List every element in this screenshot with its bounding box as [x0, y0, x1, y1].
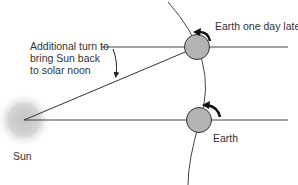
annotation-label: Additional turn to bring Sun back to sol… [30, 40, 110, 76]
additional-turn-arc [113, 49, 117, 75]
earth-one-day-later-label: Earth one day later [215, 20, 298, 32]
earth [187, 108, 212, 133]
diagram-canvas: Additional turn to bring Sun back to sol… [0, 0, 298, 185]
earth-one-day-later [185, 35, 210, 60]
sun-label: Sun [13, 150, 32, 162]
earth-label: Earth [213, 132, 238, 144]
